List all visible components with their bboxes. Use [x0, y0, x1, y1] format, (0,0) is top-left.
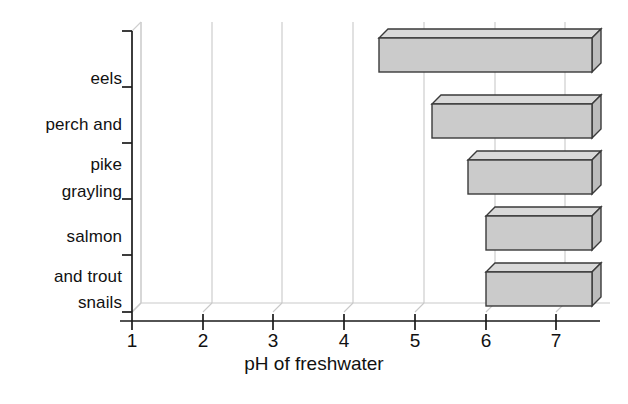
floor-depth-2	[203, 303, 212, 312]
bar-salmon-and-trout[interactable]	[486, 207, 601, 250]
x-tick-label-4: 4	[324, 330, 364, 352]
x-tick-label-6: 6	[466, 330, 506, 352]
category-label-perch-and-pike-line1: perch and	[45, 115, 122, 134]
bar-snails[interactable]	[486, 263, 601, 306]
category-label-snails: snails	[78, 273, 122, 313]
category-label-snails-line1: snails	[78, 293, 122, 312]
x-tick-label-7: 7	[536, 330, 576, 352]
x-tick-label-1: 1	[112, 330, 152, 352]
bar-snails-top	[486, 263, 601, 272]
x-axis	[120, 312, 600, 330]
bar-perch-and-pike[interactable]	[432, 95, 601, 138]
bar-eels-front	[379, 38, 592, 72]
category-label-grayling: grayling	[62, 162, 122, 202]
x-axis-title: pH of freshwater	[0, 352, 628, 375]
x-tick-label-2: 2	[183, 330, 223, 352]
category-label-salmon-and-trout-line1: salmon	[67, 227, 122, 246]
category-label-eels: eels	[90, 49, 122, 89]
bar-salmon-and-trout-front	[486, 216, 592, 250]
x-tick-label-3: 3	[253, 330, 293, 352]
category-label-eels-line1: eels	[90, 69, 122, 88]
category-label-grayling-line1: grayling	[62, 182, 122, 201]
floor-depth-3	[273, 303, 282, 312]
bar-eels[interactable]	[379, 29, 601, 72]
floor-depth-5	[415, 303, 424, 312]
bar-grayling-top	[468, 151, 601, 160]
floor-depth-1	[132, 303, 141, 312]
ph-freshwater-bar-chart: eels perch and pike grayling salmon and …	[0, 0, 628, 404]
bar-eels-top	[379, 29, 601, 38]
bar-grayling[interactable]	[468, 151, 601, 194]
bar-grayling-front	[468, 160, 592, 194]
floor-depth-4	[344, 303, 353, 312]
bar-perch-and-pike-top	[432, 95, 601, 104]
bar-salmon-and-trout-top	[486, 207, 601, 216]
wall-top-depth	[132, 22, 141, 31]
bar-snails-front	[486, 272, 592, 306]
bar-perch-and-pike-front	[432, 104, 592, 138]
x-tick-label-5: 5	[395, 330, 435, 352]
chart-left-wall	[132, 22, 141, 303]
y-axis	[122, 31, 132, 312]
